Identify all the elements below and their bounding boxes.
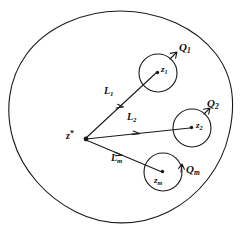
label-z1: z1 (161, 65, 168, 74)
label-qm-base: Q (186, 163, 194, 175)
label-q2-sub: 2 (215, 102, 219, 111)
orientation-arrowhead-qm (179, 164, 185, 172)
label-zm-base: z (154, 175, 158, 185)
figure-canvas: z* z1 Q1 z2 Q2 zm Qm L1 L2 Lm (0, 0, 240, 232)
label-z2-sub: 2 (200, 125, 203, 131)
label-q2: Q2 (207, 98, 219, 109)
label-lm-sub: m (117, 157, 122, 164)
center-dot-z1 (156, 71, 159, 74)
label-z-star-sup: * (70, 129, 74, 138)
label-qm-sub: m (194, 168, 200, 177)
label-z1-base: z (161, 64, 165, 74)
label-l1-sub: 1 (110, 90, 113, 97)
label-z1-sub: 1 (165, 69, 168, 75)
label-l1: L1 (104, 86, 114, 96)
path-lm (86, 140, 162, 172)
label-l2: L2 (127, 112, 137, 122)
label-zm-sub: m (158, 180, 163, 186)
label-z2: z2 (196, 121, 203, 130)
label-q1-sub: 1 (187, 46, 191, 55)
arrowhead-l2 (132, 131, 140, 134)
label-z-star: z* (66, 131, 74, 141)
label-q1: Q1 (179, 42, 191, 53)
label-l2-sub: 2 (133, 116, 136, 123)
center-dot-z2 (190, 126, 193, 129)
orientation-arrowhead-q1 (170, 52, 177, 59)
label-zm: zm (154, 176, 162, 185)
label-q1-base: Q (179, 41, 187, 53)
label-q2-base: Q (207, 97, 215, 109)
outer-boundary-curve (9, 11, 233, 223)
label-qm: Qm (186, 164, 200, 175)
label-lm: Lm (111, 153, 122, 163)
diagram-svg (0, 0, 240, 232)
label-z2-base: z (196, 120, 200, 130)
